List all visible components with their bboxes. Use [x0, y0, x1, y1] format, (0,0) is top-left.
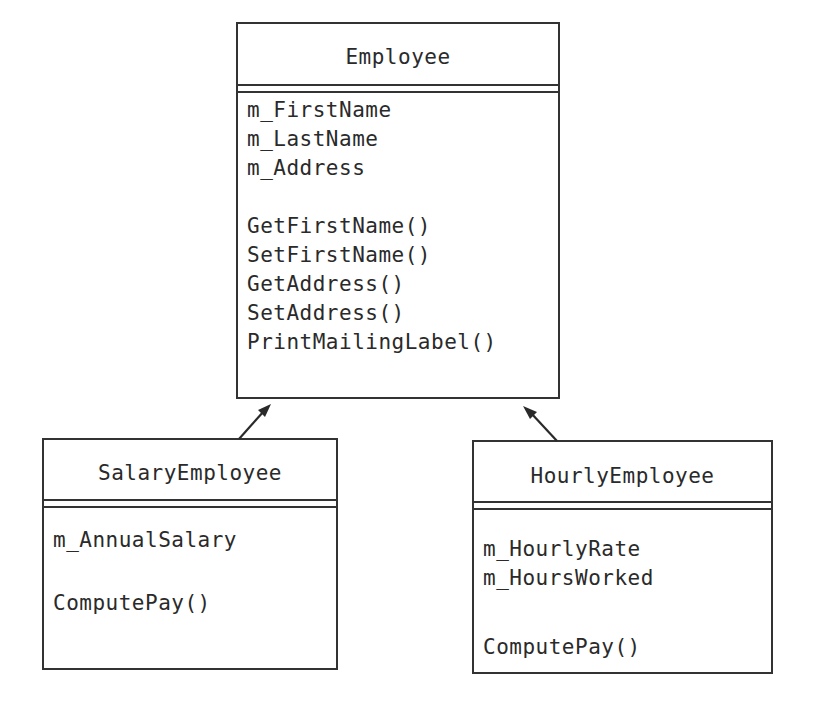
arrowhead-icon — [258, 404, 271, 417]
class-members-hourly-employee: m_HourlyRate m_HoursWorked ComputePay() — [474, 503, 771, 662]
attribute-address: m_Address — [247, 154, 558, 183]
method-get-address: GetAddress() — [247, 270, 558, 299]
arrowhead-icon — [523, 406, 537, 419]
class-members-salary-employee: m_AnnualSalary ComputePay() — [44, 501, 336, 618]
class-name-hourly-employee: HourlyEmployee — [474, 442, 771, 503]
attribute-hours-worked: m_HoursWorked — [483, 564, 771, 593]
section-gap — [247, 183, 558, 212]
attribute-first-name: m_FirstName — [247, 96, 558, 125]
class-employee: Employee m_FirstName m_LastName m_Addres… — [236, 22, 560, 399]
attribute-last-name: m_LastName — [247, 125, 558, 154]
arrow-salary-to-employee — [239, 404, 271, 439]
attribute-hourly-rate: m_HourlyRate — [483, 535, 771, 564]
method-set-first-name: SetFirstName() — [247, 241, 558, 270]
section-gap — [483, 593, 771, 633]
class-name-employee: Employee — [238, 24, 558, 86]
class-members-employee: m_FirstName m_LastName m_Address GetFirs… — [238, 86, 558, 357]
class-name-salary-employee: SalaryEmployee — [44, 440, 336, 501]
class-salary-employee: SalaryEmployee m_AnnualSalary ComputePay… — [42, 438, 338, 670]
arrow-hourly-to-employee — [523, 406, 557, 441]
attribute-annual-salary: m_AnnualSalary — [53, 526, 336, 555]
method-get-first-name: GetFirstName() — [247, 212, 558, 241]
method-compute-pay: ComputePay() — [53, 589, 336, 618]
method-print-mailing-label: PrintMailingLabel() — [247, 328, 558, 357]
class-hourly-employee: HourlyEmployee m_HourlyRate m_HoursWorke… — [472, 440, 773, 674]
section-gap — [53, 555, 336, 589]
method-set-address: SetAddress() — [247, 299, 558, 328]
method-compute-pay: ComputePay() — [483, 633, 771, 662]
